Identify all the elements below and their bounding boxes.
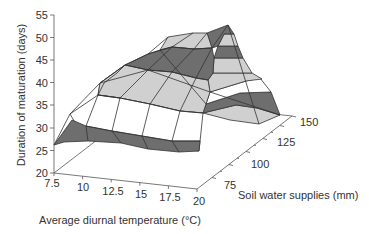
x-tick-10: 10 [77,181,89,193]
z-tick-45: 45 [36,54,48,66]
x-tick-7-5: 7.5 [44,177,59,189]
surface-chart: 55 50 45 40 35 30 25 20 Duration of matu… [0,0,369,234]
x-tick-12-5: 12.5 [102,185,123,197]
z-tick-25: 25 [36,145,48,157]
x-axis: 7.5 10 12.5 15 17.5 20 Average diurnal t… [39,173,205,226]
surface-mesh [54,25,280,152]
z-axis-title: Duration of maturation (days) [15,24,27,166]
z-tick-30: 30 [36,122,48,134]
y-tick-100: 100 [251,158,269,170]
z-axis: 55 50 45 40 35 30 25 20 Duration of matu… [15,9,54,179]
x-tick-15: 15 [135,188,147,200]
z-tick-55: 55 [36,9,48,21]
x-tick-17-5: 17.5 [159,191,180,203]
y-tick-125: 125 [277,136,295,148]
x-tick-20: 20 [193,195,205,207]
y-tick-75: 75 [224,179,236,191]
y-tick-150: 150 [300,116,318,128]
x-axis-title: Average diurnal temperature (°C) [39,214,201,226]
z-tick-40: 40 [36,77,48,89]
y-axis-title: Soil water supplies (mm) [238,189,358,201]
z-tick-50: 50 [36,32,48,44]
z-tick-35: 35 [36,99,48,111]
